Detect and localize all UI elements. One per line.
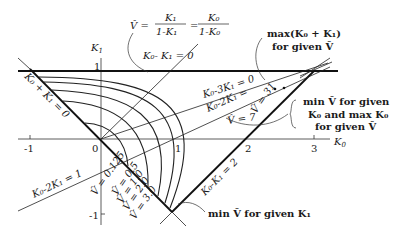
svg-text:for given V̂: for given V̂ bbox=[315, 121, 376, 132]
svg-text:min V̂ for given: min V̂ for given bbox=[303, 96, 390, 107]
svg-text:1-K₀: 1-K₀ bbox=[199, 26, 220, 37]
k0-k1-region-diagram: K1 K0 -1 0 1 2 3 1 -1 V̂ = K₁ 1-K₁ = K₀ bbox=[0, 0, 395, 238]
svg-text:K₁: K₁ bbox=[164, 12, 176, 23]
thin-lines bbox=[18, 44, 332, 211]
tick-label-k0-1: 1 bbox=[175, 143, 181, 154]
svg-text:min V̂ for given K₁: min V̂ for given K₁ bbox=[208, 208, 311, 219]
label-k0-minus-k1-eq-0: K₀- K₁ = 0 bbox=[142, 50, 194, 61]
tick-label-k0-minus1: -1 bbox=[24, 143, 34, 154]
k1-axis-label: K1 bbox=[90, 42, 103, 55]
annotation-min-v-given-k1: min V̂ for given K₁ bbox=[178, 202, 311, 219]
svg-text:=: = bbox=[190, 20, 198, 31]
svg-text:for given V̂: for given V̂ bbox=[272, 41, 333, 52]
brace bbox=[290, 100, 296, 128]
label-v-31: V̂ = 31 bbox=[249, 80, 278, 115]
svg-text:1-K₁: 1-K₁ bbox=[156, 26, 177, 37]
svg-text:K₀ and max K₀: K₀ and max K₀ bbox=[308, 109, 389, 120]
tick-label-k0-3: 3 bbox=[311, 143, 317, 154]
k0-minus-k1-eq-2-extension bbox=[160, 212, 172, 224]
svg-text:max(K₀ + K₁): max(K₀ + K₁) bbox=[267, 28, 341, 39]
svg-text:V̂ =: V̂ = bbox=[130, 20, 149, 31]
tick-label-k1-minus1: -1 bbox=[89, 210, 99, 221]
tick-label-origin: 0 bbox=[92, 143, 98, 154]
svg-text:K₀: K₀ bbox=[207, 12, 219, 23]
annotation-max-k0-plus-k1: max(K₀ + K₁) for given V̂ bbox=[256, 28, 341, 80]
k0-plus-k1-extension bbox=[172, 212, 186, 226]
label-k0-minus-k1-eq-2: K₀-K₁ = 2 bbox=[198, 156, 240, 198]
k0-axis-label: K0 bbox=[333, 136, 346, 149]
tick-label-k0-2: 2 bbox=[245, 143, 251, 154]
label-k0-minus-2k1-eq-1: K₀-2K₁ = 1 bbox=[29, 167, 83, 200]
apex-ray-1 bbox=[300, 58, 330, 78]
k0-plus-k1-upper-extension bbox=[18, 58, 30, 69]
